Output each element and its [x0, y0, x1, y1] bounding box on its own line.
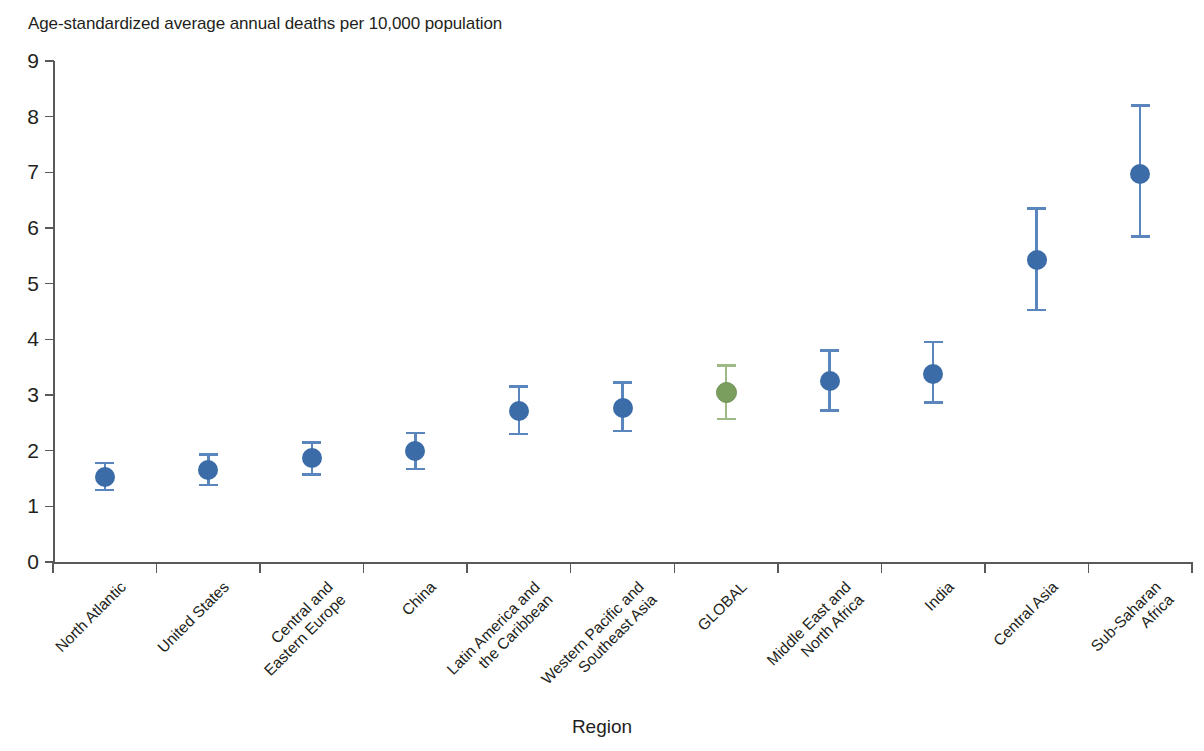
error-bar-cap-upper [1131, 104, 1150, 107]
error-bar-cap-upper [717, 364, 736, 367]
x-axis-tick [156, 562, 158, 573]
data-point-marker[interactable] [95, 467, 115, 487]
y-axis-tick-label: 8 [5, 106, 39, 127]
error-bar-cap-lower [820, 409, 839, 412]
y-axis-tick [45, 172, 54, 174]
data-point-marker[interactable] [405, 441, 425, 461]
y-axis-tick [45, 283, 54, 285]
error-bar-cap-upper [1027, 207, 1046, 210]
error-bar-cap-upper [820, 349, 839, 352]
x-axis-tick [52, 562, 54, 573]
y-axis-tick [45, 450, 54, 452]
x-axis-tick [570, 562, 572, 573]
x-axis-tick [1088, 562, 1090, 573]
data-point-marker[interactable] [1027, 250, 1047, 270]
error-bar-cap-lower [613, 430, 632, 433]
y-axis-tick-label: 6 [5, 217, 39, 238]
y-axis-tick [45, 227, 54, 229]
y-axis-tick [45, 339, 54, 341]
y-axis-tick-label: 0 [5, 551, 39, 572]
x-axis-tick [466, 562, 468, 573]
x-axis-tick [674, 562, 676, 573]
error-bar-cap-lower [1027, 309, 1046, 312]
y-axis-tick-label: 2 [5, 440, 39, 461]
data-point-marker[interactable] [1130, 164, 1150, 184]
y-axis-tick [45, 116, 54, 118]
error-bar-cap-lower [406, 468, 425, 471]
x-axis-tick [777, 562, 779, 573]
error-bar-cap-lower [509, 433, 528, 436]
y-axis-tick [45, 60, 54, 62]
x-axis-tick [259, 562, 261, 573]
error-bar-cap-lower [199, 484, 218, 487]
error-bar-cap-upper [509, 385, 528, 388]
y-axis-tick-label: 4 [5, 328, 39, 349]
error-bar-cap-lower [95, 489, 114, 492]
y-axis-tick-label: 1 [5, 495, 39, 516]
error-bar-cap-upper [406, 432, 425, 435]
x-axis-tick [881, 562, 883, 573]
x-axis-tick [363, 562, 365, 573]
x-axis-tick [984, 562, 986, 573]
x-axis-title: Region [0, 716, 1204, 738]
error-bar-cap-upper [302, 441, 321, 444]
x-axis-line [53, 562, 1192, 564]
error-bar-cap-lower [1131, 235, 1150, 238]
y-axis-line [53, 61, 55, 564]
data-point-marker[interactable] [613, 398, 633, 418]
x-axis-tick [1191, 562, 1193, 573]
y-axis-tick [45, 394, 54, 396]
data-point-marker[interactable] [509, 401, 529, 421]
error-bar-cap-lower [717, 418, 736, 421]
error-bar-cap-upper [924, 341, 943, 344]
y-axis-tick-label: 3 [5, 384, 39, 405]
y-axis-title: Age-standardized average annual deaths p… [28, 14, 502, 34]
error-bar-cap-lower [302, 473, 321, 476]
y-axis-tick-label: 7 [5, 161, 39, 182]
data-point-marker[interactable] [820, 371, 840, 391]
error-bar-cap-upper [613, 381, 632, 384]
data-point-marker[interactable] [716, 382, 737, 403]
y-axis-tick [45, 506, 54, 508]
error-bar-cap-upper [95, 462, 114, 465]
data-point-marker[interactable] [198, 460, 218, 480]
error-bar-cap-upper [199, 453, 218, 456]
chart-container: Age-standardized average annual deaths p… [0, 0, 1204, 751]
y-axis-tick-label: 9 [5, 50, 39, 71]
error-bar-cap-lower [924, 401, 943, 404]
y-axis-tick-label: 5 [5, 273, 39, 294]
data-point-marker[interactable] [923, 364, 943, 384]
data-point-marker[interactable] [302, 448, 322, 468]
